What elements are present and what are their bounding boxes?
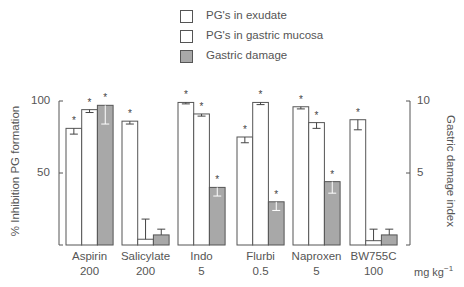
dose-unit-exponent: −1 [444, 264, 453, 273]
bar [366, 241, 382, 245]
bar [97, 105, 113, 245]
bar [381, 235, 397, 245]
significance-star: * [88, 97, 92, 108]
bar [350, 120, 366, 245]
bar [122, 121, 138, 245]
bar [237, 137, 253, 245]
significance-star: * [215, 174, 219, 185]
bar [309, 123, 325, 245]
bar [153, 235, 169, 245]
x-category-label: BW755C100 [339, 249, 409, 279]
significance-star: * [184, 89, 188, 100]
significance-star: * [274, 189, 278, 200]
significance-star: * [330, 169, 334, 180]
significance-star: * [315, 110, 319, 121]
bar [178, 102, 194, 245]
dose-unit-text: mg kg [414, 266, 444, 278]
bar [253, 102, 269, 245]
bar [293, 107, 309, 245]
drug-dose: 100 [339, 264, 409, 279]
significance-star: * [299, 94, 303, 105]
significance-star: * [128, 108, 132, 119]
bar [82, 110, 98, 245]
significance-star: * [103, 92, 107, 103]
drug-name: BW755C [339, 249, 409, 264]
significance-star: * [259, 89, 263, 100]
bar [66, 128, 82, 245]
plot-area: ************** [0, 0, 464, 287]
bar [138, 239, 154, 245]
significance-star: * [243, 124, 247, 135]
significance-star: * [356, 107, 360, 118]
bar [194, 114, 210, 245]
significance-star: * [72, 115, 76, 126]
significance-star: * [200, 101, 204, 112]
dose-unit: mg kg−1 [414, 264, 453, 278]
